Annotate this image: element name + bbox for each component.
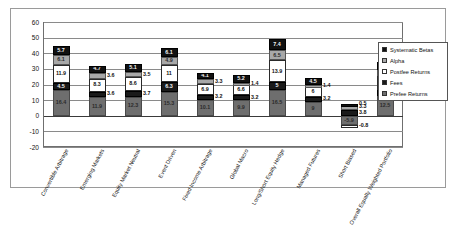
bar-segment-prefee-returns[interactable]: 9 xyxy=(305,102,322,116)
bar-segment-fees[interactable] xyxy=(89,92,106,98)
bar-segment-value-outside: 3.8 xyxy=(359,110,367,116)
bar-segment-value: 4.9 xyxy=(165,58,173,64)
bar-segment-systematic-betas[interactable]: 5.7 xyxy=(53,46,70,55)
bar-segment-prefee-returns[interactable]: 11.9 xyxy=(89,97,106,116)
bar-segment-fees[interactable]: 4.5 xyxy=(53,83,70,90)
bar-segment-value: 16.5 xyxy=(272,100,283,106)
x-axis-label-9: Overall Equally Weighted Portfolio xyxy=(348,148,393,226)
bar-segment-value-outside: -0.8 xyxy=(359,123,368,129)
bar-segment-systematic-betas[interactable] xyxy=(341,104,358,107)
y-tick-label-60: 60 xyxy=(32,19,39,26)
bar-segment-prefee-returns[interactable]: 16.5 xyxy=(269,90,286,116)
bar-segment-fees[interactable] xyxy=(233,95,250,100)
bar-segment-systematic-betas[interactable]: 4.5 xyxy=(305,78,322,85)
bar-segment-value-outside: 3.5 xyxy=(143,72,151,78)
bar-segment-fees[interactable] xyxy=(197,95,214,100)
legend-swatch-systematic-betas-icon xyxy=(382,47,387,52)
bar-segment-alpha[interactable] xyxy=(197,79,214,84)
bar-column[interactable]: 964.5 xyxy=(305,22,322,147)
bar-segment-alpha[interactable]: 4.9 xyxy=(161,57,178,65)
x-axis-category-labels: Convertible ArbitrageEmerging MarketsEqu… xyxy=(43,148,403,240)
bar-segment-value: 7.4 xyxy=(273,42,281,48)
bar-segment-alpha[interactable]: 6.1 xyxy=(53,55,70,65)
bar-segment-prefee-returns[interactable]: 16.4 xyxy=(53,90,70,116)
bar-column[interactable]: 12.38.65.1 xyxy=(125,22,142,147)
bar-segment-value: 5.7 xyxy=(57,48,65,54)
x-axis-label-5: Global Macro xyxy=(228,148,249,180)
legend-item-alpha[interactable]: Alpha xyxy=(382,57,445,64)
bar-column[interactable]: 11.98.34.7 xyxy=(89,22,106,147)
bar-segment-fees[interactable]: 6.3 xyxy=(161,82,178,92)
bar-segment-postfee-returns[interactable]: 11.9 xyxy=(53,65,70,84)
bar-segment-fees[interactable] xyxy=(305,97,322,102)
bar-segment-postfee-returns[interactable] xyxy=(341,125,358,128)
bar-segment-value: 16.4 xyxy=(56,100,67,106)
bar-segment-alpha[interactable] xyxy=(233,83,250,86)
bar-segment-prefee-returns[interactable]: 10.1 xyxy=(197,100,214,116)
bar-segment-postfee-returns[interactable]: 13.9 xyxy=(269,60,286,82)
legend-swatch-prefee-returns-icon xyxy=(382,91,387,96)
bar-segment-systematic-betas[interactable]: 4.7 xyxy=(89,66,106,73)
bar-segment-alpha[interactable]: 6.5 xyxy=(269,50,286,60)
bar-segment-systematic-betas[interactable]: 6.1 xyxy=(161,48,178,58)
bar-column[interactable]: 9.96.65.2 xyxy=(233,22,250,147)
bar-segment-postfee-returns[interactable]: 8.6 xyxy=(125,77,142,90)
bar-segment-value: 10.1 xyxy=(200,105,211,111)
legend-label: Postfee Returns xyxy=(390,69,430,75)
x-axis-label-2: Equity Market Neutral xyxy=(111,148,142,198)
legend-label: Systematic Betas xyxy=(390,47,433,53)
bar-segment-systematic-betas[interactable]: 5.1 xyxy=(125,64,142,72)
bar-column[interactable]: 10.16.94.1 xyxy=(197,22,214,147)
bar-segment-fees[interactable] xyxy=(125,91,142,97)
bar-segment-fees[interactable]: 5 xyxy=(269,82,286,90)
y-tick-label-0: 0 xyxy=(35,112,39,119)
bar-segment-postfee-returns[interactable]: 8.3 xyxy=(89,79,106,92)
bar-segment-postfee-returns[interactable]: 11 xyxy=(161,65,178,82)
bar-column[interactable]: -5.9 xyxy=(341,22,358,147)
legend-label: Fees xyxy=(390,80,402,86)
bar-segment-value-outside: 3.2 xyxy=(215,94,223,100)
bar-segment-prefee-returns[interactable]: -5.9 xyxy=(341,116,358,125)
legend-item-postfee-returns[interactable]: Postfee Returns xyxy=(382,68,445,75)
bar-segment-alpha[interactable] xyxy=(89,73,106,79)
x-axis-label-1: Emerging Markets xyxy=(79,148,106,191)
x-axis-label-4: Fixed Income Arbitrage xyxy=(181,148,213,202)
x-axis-label-8: Short Biased xyxy=(337,148,357,179)
y-tick-label-20: 20 xyxy=(32,81,39,88)
legend-item-systematic-betas[interactable]: Systematic Betas xyxy=(382,46,445,53)
bar-segment-value: 4.1 xyxy=(201,73,209,79)
bar-segment-value: 12.5 xyxy=(380,103,391,109)
chart-container: -20-100102030405060 16.44.511.96.15.73.6… xyxy=(0,0,453,243)
bar-segment-prefee-returns[interactable]: 9.9 xyxy=(233,100,250,115)
bar-segment-value: 5.1 xyxy=(129,65,137,71)
bar-segment-value: 6 xyxy=(312,89,315,95)
bar-column[interactable]: 16.5513.96.57.4 xyxy=(269,22,286,147)
bar-segment-value: 4.5 xyxy=(309,79,317,85)
bar-segment-value: 6.3 xyxy=(165,84,173,90)
bar-segment-prefee-returns[interactable]: 12.3 xyxy=(125,97,142,116)
x-axis-label-0: Convertible Arbitrage xyxy=(39,148,69,197)
bar-segment-postfee-returns[interactable]: 6.6 xyxy=(233,85,250,95)
bar-segment-value: 11 xyxy=(166,71,172,77)
bar-segment-alpha[interactable] xyxy=(305,85,322,88)
bar-segment-value: 4.5 xyxy=(57,84,65,90)
bar-column[interactable]: 16.44.511.96.15.7 xyxy=(53,22,70,147)
bar-segment-postfee-returns[interactable]: 6 xyxy=(305,87,322,96)
legend-label: Alpha xyxy=(390,58,404,64)
bar-segment-value: 6.6 xyxy=(237,87,245,93)
y-tick-label--20: -20 xyxy=(30,144,39,151)
bar-segment-alpha[interactable] xyxy=(125,72,142,77)
bar-segment-postfee-returns[interactable]: 6.9 xyxy=(197,84,214,95)
bar-segment-systematic-betas[interactable]: 5.2 xyxy=(233,75,250,83)
bar-segment-systematic-betas[interactable]: 4.1 xyxy=(197,73,214,79)
bar-segment-value: 9 xyxy=(312,106,315,112)
bar-segment-value-outside: 1.4 xyxy=(323,83,331,89)
legend-label: Prefee Returns xyxy=(390,91,428,97)
bar-segment-prefee-returns[interactable]: 15.3 xyxy=(161,92,178,116)
bar-segment-systematic-betas[interactable]: 7.4 xyxy=(269,39,286,51)
legend-item-prefee-returns[interactable]: Prefee Returns xyxy=(382,90,445,97)
bar-series-layer: 16.44.511.96.15.73.63.611.98.34.73.73.51… xyxy=(43,22,403,147)
legend-item-fees[interactable]: Fees xyxy=(382,79,445,86)
bar-segment-fees[interactable] xyxy=(341,110,358,116)
bar-column[interactable]: 15.36.3114.96.1 xyxy=(161,22,178,147)
